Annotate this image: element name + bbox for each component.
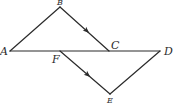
point-label-f: F: [51, 53, 60, 66]
segment-ab: [10, 7, 60, 51]
point-label-a: A: [0, 45, 8, 58]
point-label-d: D: [163, 45, 173, 58]
segment-ed: [110, 51, 160, 94]
segment-bc: [60, 7, 109, 51]
point-label-b: B: [56, 0, 63, 7]
segment-fe: [60, 51, 110, 94]
point-label-c: C: [111, 39, 120, 52]
geometry-diagram: B A C D F E: [0, 0, 175, 103]
point-label-e: E: [106, 96, 113, 103]
